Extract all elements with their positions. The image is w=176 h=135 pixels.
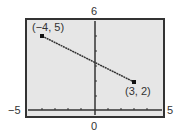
point-marker-b — [132, 80, 136, 84]
origin-label: 0 — [91, 121, 97, 132]
point-marker-a — [40, 34, 44, 38]
y-max-label: 6 — [91, 6, 97, 17]
point-b-label: (3, 2) — [125, 86, 151, 97]
x-max-label: 5 — [167, 105, 173, 116]
x-min-label: −5 — [8, 105, 21, 116]
calculator-graph — [0, 0, 176, 135]
point-a-label: (−4, 5) — [32, 22, 64, 33]
